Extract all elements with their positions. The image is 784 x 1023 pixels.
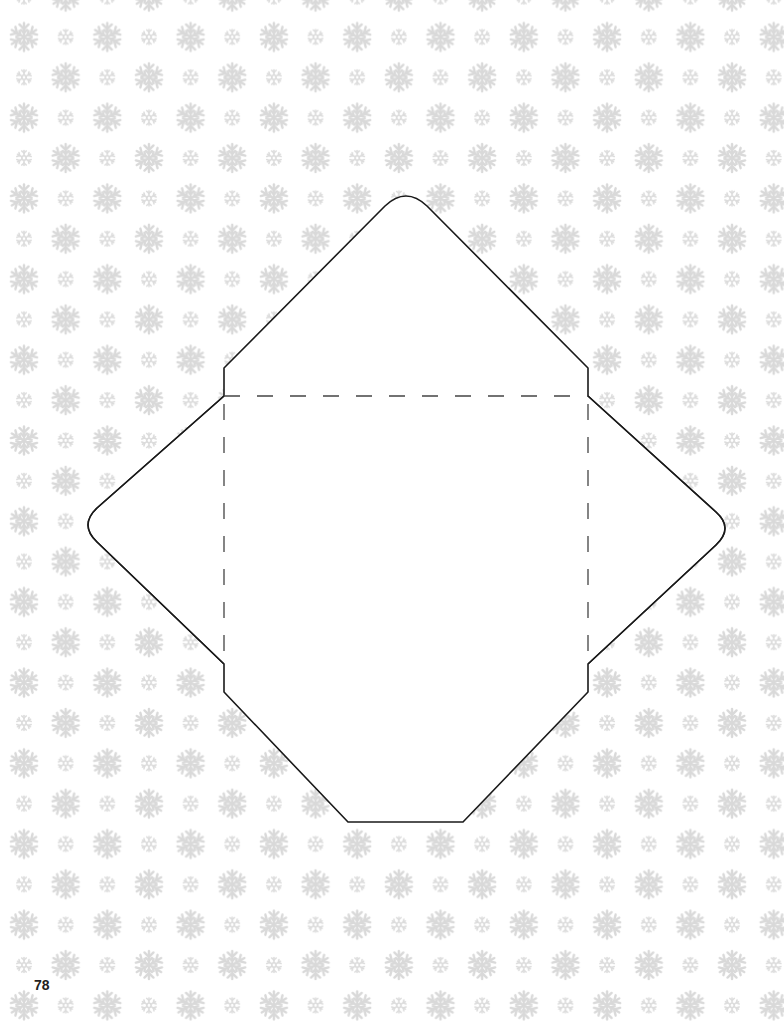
page-number: 78 [34, 977, 50, 993]
envelope-template-page [0, 0, 784, 1023]
